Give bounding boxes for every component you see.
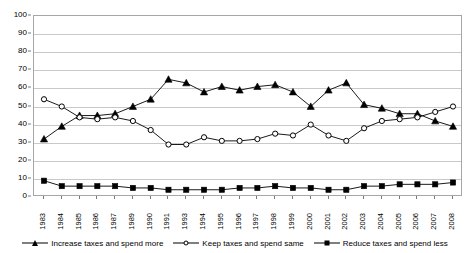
data-point-marker (41, 178, 46, 183)
data-point-marker (433, 182, 438, 187)
data-point-marker (415, 115, 420, 120)
legend-marker-square-icon (314, 239, 340, 248)
data-point-marker (255, 185, 260, 190)
legend-entry[interactable]: Increase taxes and spend more (22, 239, 163, 248)
x-axis-tick-label: 1991 (164, 213, 172, 230)
data-point-marker (272, 81, 279, 87)
data-point-marker (77, 115, 82, 120)
x-axis: 1983198419851986198719891990199119931994… (33, 198, 462, 230)
data-point-marker (219, 138, 224, 143)
data-point-marker (450, 180, 455, 185)
data-point-marker (290, 133, 295, 138)
x-axis-tick-mark (416, 196, 417, 199)
line-chart: 0102030405060708090100 19831984198519861… (0, 0, 470, 253)
data-point-marker (308, 185, 313, 190)
legend-entry[interactable]: Reduce taxes and spend less (314, 239, 448, 248)
y-axis-tick-label: 20 (18, 156, 27, 164)
x-axis-tick-mark (310, 196, 311, 199)
y-axis-tick-label: 100 (14, 11, 27, 19)
x-axis-tick-label: 1986 (93, 213, 101, 230)
data-point-marker (113, 115, 118, 120)
x-axis-tick-mark (61, 196, 62, 199)
data-point-marker (59, 184, 64, 189)
y-axis-tick-label: 40 (18, 120, 27, 128)
x-axis-tick-label: 1999 (288, 213, 296, 230)
y-axis-tick-mark (28, 123, 31, 124)
x-axis-tick-mark (256, 196, 257, 199)
y-axis-tick-label: 30 (18, 138, 27, 146)
data-point-marker (237, 138, 242, 143)
x-axis-tick-mark (167, 196, 168, 199)
x-axis-tick-mark (221, 196, 222, 199)
y-axis: 0102030405060708090100 (0, 15, 31, 196)
x-axis-tick-label: 2008 (448, 213, 456, 230)
x-axis-tick-mark (114, 196, 115, 199)
x-axis-tick-mark (185, 196, 186, 199)
x-axis-tick-label: 2006 (413, 213, 421, 230)
x-axis-tick-mark (43, 196, 44, 199)
data-point-marker (95, 184, 100, 189)
x-axis-tick-label: 2007 (430, 213, 438, 230)
data-point-marker (184, 142, 189, 147)
legend-marker-triangle-icon (22, 239, 48, 248)
data-point-marker (58, 123, 65, 129)
x-axis-tick-label: 1990 (146, 213, 154, 230)
y-axis-tick-label: 60 (18, 83, 27, 91)
data-point-marker (166, 187, 171, 192)
data-point-marker (165, 76, 172, 82)
x-axis-tick-mark (381, 196, 382, 199)
y-axis-tick-mark (28, 141, 31, 142)
y-axis-tick-label: 10 (18, 174, 27, 182)
x-axis-tick-mark (203, 196, 204, 199)
data-point-marker (450, 104, 455, 109)
legend-label: Keep taxes and spend same (202, 239, 303, 248)
data-point-marker (95, 117, 100, 122)
data-point-marker (397, 117, 402, 122)
legend-entry[interactable]: Keep taxes and spend same (173, 239, 303, 248)
x-axis-tick-label: 1983 (39, 213, 47, 230)
data-point-marker (273, 184, 278, 189)
x-axis-tick-mark (150, 196, 151, 199)
x-axis-tick-mark (274, 196, 275, 199)
data-point-marker (273, 131, 278, 136)
x-axis-tick-mark (328, 196, 329, 199)
data-point-marker (379, 184, 384, 189)
data-point-marker (113, 184, 118, 189)
data-point-marker (201, 135, 206, 140)
data-point-marker (432, 117, 439, 123)
y-axis-tick-label: 70 (18, 65, 27, 73)
x-axis-tick-label: 1995 (217, 213, 225, 230)
data-point-marker (130, 118, 135, 123)
y-axis-tick-mark (28, 196, 31, 197)
x-axis-tick-mark (132, 196, 133, 199)
data-point-marker (433, 109, 438, 114)
y-axis-tick-mark (28, 159, 31, 160)
series-line (44, 181, 453, 190)
data-point-marker (290, 185, 295, 190)
data-point-marker (361, 184, 366, 189)
data-point-marker (344, 138, 349, 143)
series-line (44, 79, 453, 139)
data-point-marker (184, 187, 189, 192)
y-axis-tick-label: 50 (18, 102, 27, 110)
x-axis-tick-label: 2000 (306, 213, 314, 230)
legend-marker-circle-open-icon (173, 239, 199, 248)
data-point-marker (308, 122, 313, 127)
x-axis-tick-label: 1997 (253, 213, 261, 230)
x-axis-tick-label: 1987 (110, 213, 118, 230)
data-point-marker (41, 97, 46, 102)
legend-label: Reduce taxes and spend less (343, 239, 448, 248)
x-axis-tick-mark (292, 196, 293, 199)
x-axis-tick-mark (345, 196, 346, 199)
x-axis-tick-mark (434, 196, 435, 199)
x-axis-tick-label: 2001 (324, 213, 332, 230)
data-point-marker (326, 133, 331, 138)
data-point-marker (343, 79, 350, 85)
legend-label: Increase taxes and spend more (51, 239, 163, 248)
y-axis-tick-label: 90 (18, 29, 27, 37)
data-point-marker (77, 184, 82, 189)
x-axis-tick-mark (79, 196, 80, 199)
x-axis-tick-label: 1994 (199, 213, 207, 230)
y-axis-tick-mark (28, 87, 31, 88)
data-point-marker (326, 187, 331, 192)
